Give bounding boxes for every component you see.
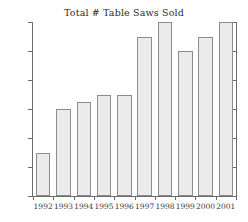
bar xyxy=(137,37,152,197)
x-tick-mark xyxy=(175,196,176,200)
bar xyxy=(178,51,193,196)
x-axis-label: 2001 xyxy=(213,203,239,211)
bar xyxy=(219,22,234,196)
x-tick-mark xyxy=(33,196,34,200)
x-tick-mark xyxy=(135,196,136,200)
x-tick-mark xyxy=(114,196,115,200)
bar-chart: Total # Table Saws Sold 020406080100120 … xyxy=(0,0,248,222)
bar xyxy=(77,102,92,196)
plot-area xyxy=(33,22,236,196)
x-tick-mark xyxy=(155,196,156,200)
x-tick-mark xyxy=(94,196,95,200)
x-tick-mark xyxy=(53,196,54,200)
bar xyxy=(158,22,173,196)
bar xyxy=(36,153,51,197)
bar xyxy=(198,37,213,197)
bar xyxy=(117,95,132,197)
bar xyxy=(56,109,71,196)
x-tick-mark xyxy=(195,196,196,200)
x-tick-mark xyxy=(216,196,217,200)
x-tick-mark xyxy=(236,196,237,200)
x-tick-mark xyxy=(74,196,75,200)
bar xyxy=(97,95,112,197)
chart-title: Total # Table Saws Sold xyxy=(0,7,248,18)
